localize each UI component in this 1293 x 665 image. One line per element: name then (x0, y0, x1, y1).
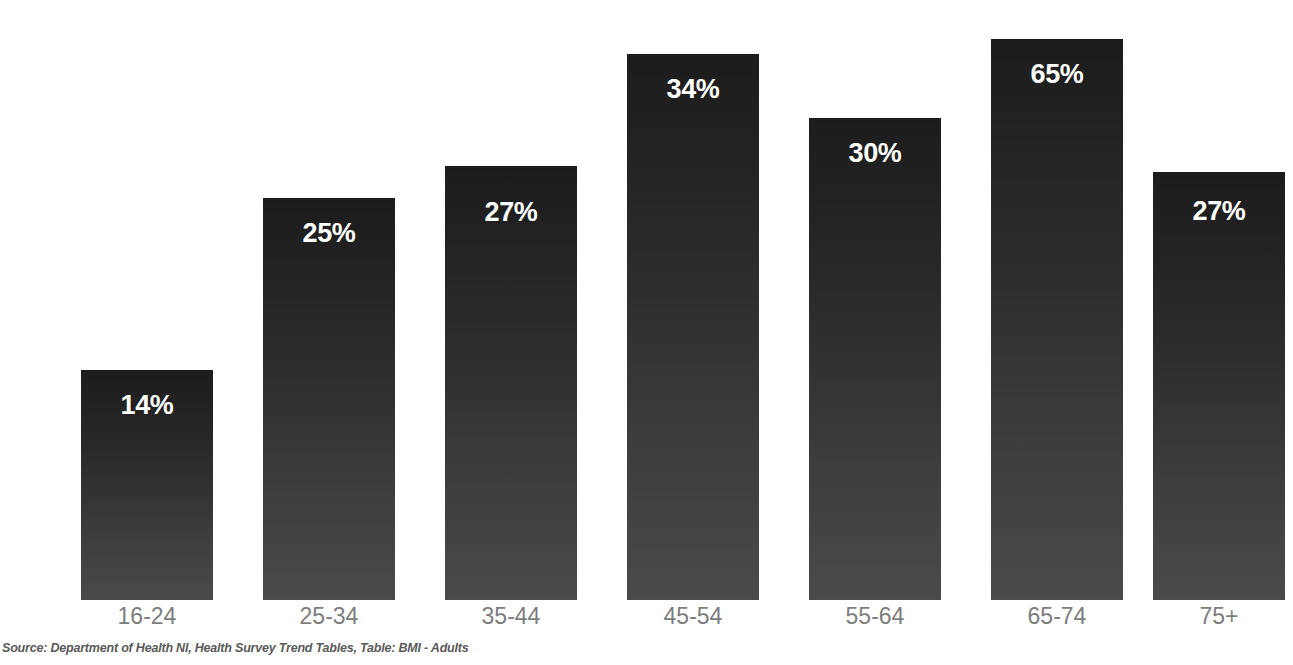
plot-area: 14% 25% 27% 34% 30% 65% 27% (0, 0, 1293, 600)
category-label-45-54: 45-54 (627, 604, 759, 629)
category-label-25-34: 25-34 (263, 604, 395, 629)
category-label-65-74: 65-74 (991, 604, 1123, 629)
source-note: Source: Department of Health NI, Health … (2, 641, 469, 655)
category-axis: 16-24 25-34 35-44 45-54 55-64 65-74 75+ (0, 600, 1293, 640)
bar-35-44[interactable] (445, 166, 577, 600)
bar-75-plus[interactable] (1153, 172, 1285, 600)
bar-55-64[interactable] (809, 118, 941, 600)
bar-45-54[interactable] (627, 54, 759, 600)
category-label-35-44: 35-44 (445, 604, 577, 629)
bar-group: 34% (627, 54, 759, 600)
bar-group: 14% (81, 370, 213, 600)
bar-group: 65% (991, 39, 1123, 600)
category-label-75-plus: 75+ (1153, 604, 1285, 629)
bar-chart: 14% 25% 27% 34% 30% 65% 27% 16-24 2 (0, 0, 1293, 665)
category-label-16-24: 16-24 (81, 604, 213, 629)
bar-group: 27% (1153, 172, 1285, 600)
bar-group: 30% (809, 118, 941, 600)
bar-16-24[interactable] (81, 370, 213, 600)
bar-group: 25% (263, 198, 395, 600)
bar-group: 27% (445, 166, 577, 600)
bar-65-74[interactable] (991, 39, 1123, 600)
bar-25-34[interactable] (263, 198, 395, 600)
category-label-55-64: 55-64 (809, 604, 941, 629)
